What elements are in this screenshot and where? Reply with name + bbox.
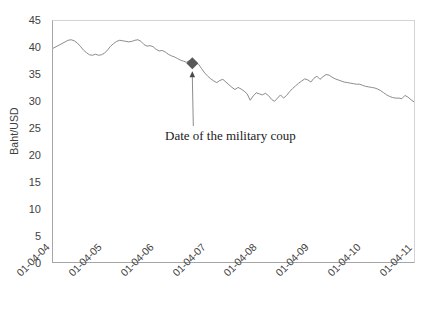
- x-axis-tick-label: 01-04-08: [221, 241, 259, 279]
- x-axis-tick-label: 01-04-04: [14, 241, 52, 279]
- x-axis-tick-label: 01-04-10: [325, 241, 363, 279]
- x-axis-tick-label: 01-04-09: [273, 241, 311, 279]
- x-axis-tick-label: 01-04-07: [170, 241, 208, 279]
- x-axis-tick-labels: 01-04-0401-04-0501-04-0601-04-0701-04-08…: [0, 0, 433, 334]
- coup-annotation-label: Date of the military coup: [165, 128, 296, 144]
- x-axis-tick-label: 01-04-11: [377, 241, 414, 278]
- x-axis-tick-label: 01-04-05: [66, 241, 104, 279]
- x-axis-tick-label: 01-04-06: [118, 241, 156, 279]
- chart-container: Baht/USD 051015202530354045 01-04-0401-0…: [0, 0, 433, 334]
